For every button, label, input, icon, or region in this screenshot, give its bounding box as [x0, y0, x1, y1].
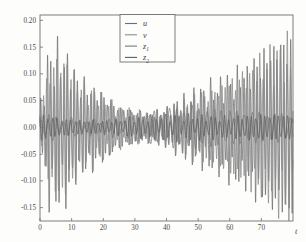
y-tick-label: -0.10 — [21, 177, 36, 185]
x-tick-label: 0 — [38, 224, 42, 232]
y-tick-label: 0.05 — [23, 97, 36, 105]
y-tick-label: 0.20 — [23, 17, 36, 25]
legend-subscript: 1 — [146, 46, 149, 52]
y-tick-label: -0.15 — [21, 204, 36, 212]
y-tick-label: 0.15 — [23, 44, 36, 52]
legend-label-v: v — [143, 31, 147, 40]
legend-subscript: 2 — [146, 58, 149, 64]
x-tick-label: 20 — [100, 224, 108, 232]
y-tick-label: 0.00 — [23, 124, 36, 132]
x-tick-label: 30 — [131, 224, 139, 232]
chart-legend: uvz1z2 — [120, 15, 175, 64]
legend-box — [120, 15, 175, 63]
x-tick-label: 60 — [226, 224, 234, 232]
x-axis-title: t — [295, 227, 298, 236]
x-tick-label: 50 — [195, 224, 203, 232]
x-tick-label: 70 — [258, 224, 266, 232]
y-tick-label: -0.05 — [21, 151, 36, 159]
legend-label-u: u — [143, 19, 147, 28]
y-tick-label: 0.10 — [23, 70, 36, 78]
chart-figure: 010203040506070 -0.15-0.10-0.050.000.050… — [0, 0, 306, 242]
x-tick-label: 40 — [163, 224, 171, 232]
x-tick-label: 10 — [68, 224, 76, 232]
line-chart: 010203040506070 -0.15-0.10-0.050.000.050… — [0, 0, 306, 242]
